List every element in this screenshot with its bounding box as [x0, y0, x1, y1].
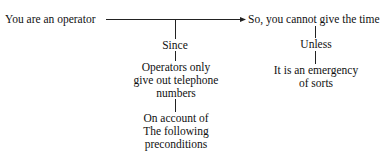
- rebuttal-node: It is an emergency of sorts: [262, 64, 370, 90]
- account-line: The following: [125, 125, 227, 138]
- arrowhead-icon: [240, 17, 246, 22]
- rebuttal-line: It is an emergency: [262, 64, 370, 77]
- unless-label: Unless: [285, 38, 347, 51]
- since-label: Since: [145, 39, 205, 52]
- reason-line: numbers: [120, 87, 232, 100]
- account-line: preconditions: [125, 138, 227, 151]
- rebuttal-line: of sorts: [262, 77, 370, 90]
- account-node: On account of The following precondition…: [125, 112, 227, 151]
- account-line: On account of: [125, 112, 227, 125]
- conclusion-node: So, you cannot give the time: [248, 13, 380, 26]
- reason-node: Operators only give out telephone number…: [120, 61, 232, 100]
- reason-line: Operators only: [120, 61, 232, 74]
- reason-line: give out telephone: [120, 74, 232, 87]
